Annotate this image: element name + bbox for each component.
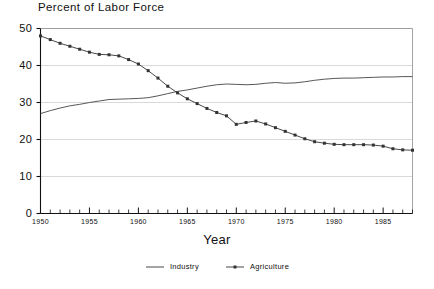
data-point-marker [147, 69, 150, 72]
data-point-marker [127, 58, 130, 61]
legend-label: Agriculture [250, 262, 289, 271]
data-point-marker [59, 42, 62, 45]
series-line-industry [41, 77, 413, 114]
data-point-marker [333, 143, 336, 146]
data-point-marker [245, 121, 248, 124]
x-axis-tick-label: 1960 [121, 218, 155, 225]
data-point-marker [137, 63, 140, 66]
data-point-marker [284, 130, 287, 133]
data-point-marker [235, 123, 238, 126]
legend-line-point-icon [225, 263, 245, 271]
legend-item: Industry [145, 262, 199, 271]
x-axis-tick-label: 1980 [317, 218, 351, 225]
data-point-marker [98, 53, 101, 56]
data-point-marker [313, 140, 316, 143]
y-axis-tick-label: 10 [4, 170, 32, 182]
x-axis-tick-label: 1965 [170, 218, 204, 225]
data-point-marker [88, 51, 91, 54]
data-point-marker [196, 102, 199, 105]
data-point-marker [68, 45, 71, 48]
data-point-marker [362, 143, 365, 146]
legend-label: Industry [170, 262, 199, 271]
chart-legend: IndustryAgriculture [0, 262, 434, 271]
x-axis-tick-label: 1985 [366, 218, 400, 225]
data-point-marker [156, 77, 159, 80]
data-point-marker [78, 48, 81, 51]
x-axis-tick-label: 1970 [219, 218, 253, 225]
series-line-agriculture [41, 36, 413, 150]
legend-line-icon [145, 263, 165, 271]
data-point-marker [205, 107, 208, 110]
data-point-marker [352, 143, 355, 146]
x-axis-tick-label: 1955 [72, 218, 106, 225]
data-point-marker [323, 142, 326, 145]
data-point-marker [117, 54, 120, 57]
y-axis-tick-label: 20 [4, 133, 32, 145]
data-point-marker [49, 38, 52, 41]
data-point-marker [303, 137, 306, 140]
data-point-marker [166, 85, 169, 88]
chart-figure: Percent of Labor Force 01020304050 19501… [0, 0, 434, 289]
data-point-marker [186, 97, 189, 100]
plot-frame [41, 29, 413, 214]
legend-item: Agriculture [225, 262, 289, 271]
data-point-marker [215, 111, 218, 114]
chart-title: Percent of Labor Force [38, 1, 164, 13]
x-axis-tick-label: 1950 [24, 218, 58, 225]
data-point-marker [342, 143, 345, 146]
data-point-marker [225, 114, 228, 117]
data-point-marker [39, 34, 42, 37]
data-point-marker [294, 134, 297, 137]
x-axis-label: Year [167, 232, 267, 247]
data-point-marker [411, 149, 414, 152]
y-axis-tick-label: 40 [4, 59, 32, 71]
data-point-marker [254, 120, 257, 123]
data-point-marker [382, 145, 385, 148]
data-point-marker [391, 147, 394, 150]
data-point-marker [176, 91, 179, 94]
data-point-marker [108, 53, 111, 56]
data-point-marker [264, 122, 267, 125]
data-point-marker [401, 148, 404, 151]
x-axis-tick-label: 1975 [268, 218, 302, 225]
y-axis-tick-label: 50 [4, 22, 32, 34]
y-axis-tick-label: 30 [4, 96, 32, 108]
data-point-marker [274, 126, 277, 129]
data-point-marker [372, 144, 375, 147]
